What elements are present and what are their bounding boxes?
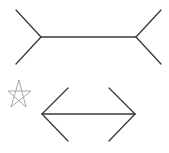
fin-top-right-upper — [136, 10, 161, 37]
fin-bottom-right-upper — [109, 88, 135, 114]
fin-bottom-right-lower — [109, 114, 135, 141]
muller-lyer-diagram — [0, 0, 169, 153]
fin-top-left-upper — [16, 10, 41, 37]
star-icon — [8, 80, 31, 107]
fin-bottom-left-lower — [42, 114, 68, 141]
fin-top-left-lower — [16, 37, 41, 64]
figure-fins-in — [42, 88, 135, 141]
figure-fins-out — [16, 10, 161, 64]
fin-bottom-left-upper — [42, 88, 68, 114]
fin-top-right-lower — [136, 37, 161, 64]
